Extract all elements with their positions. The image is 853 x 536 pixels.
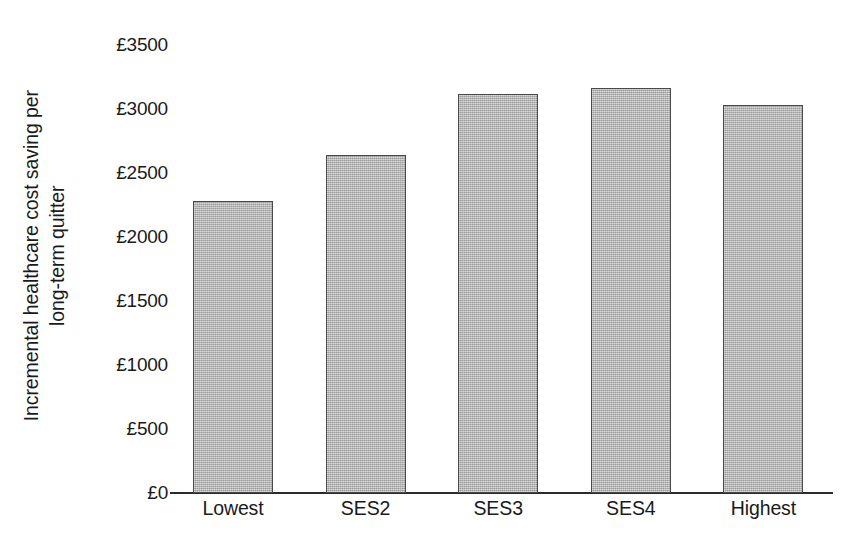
y-axis-tick-label: £3500 xyxy=(116,35,168,54)
y-axis-title: Incremental healthcare cost saving per l… xyxy=(14,0,76,512)
y-axis-tick-label: £1500 xyxy=(116,291,168,310)
x-axis-tick-label: SES4 xyxy=(573,497,689,520)
x-axis-tick-labels: LowestSES2SES3SES4Highest xyxy=(170,497,833,531)
x-axis-tick-label: SES3 xyxy=(440,497,556,520)
y-axis-title-line-1: Incremental healthcare cost saving per xyxy=(19,90,45,421)
x-axis-tick-label: Highest xyxy=(705,497,821,520)
y-axis-tick-label: £2500 xyxy=(116,163,168,182)
y-axis-tick-label: £2000 xyxy=(116,227,168,246)
bar xyxy=(591,88,671,493)
plot-area xyxy=(170,30,833,493)
bar xyxy=(458,94,538,493)
y-axis-tick-label: £3000 xyxy=(116,99,168,118)
y-axis-title-line-2: long-term quitter xyxy=(45,90,71,421)
x-axis-tick-label: Lowest xyxy=(175,497,291,520)
y-axis-tick-label: £1000 xyxy=(116,355,168,374)
bar xyxy=(326,155,406,493)
y-axis-tick-labels: £0£500£1000£1500£2000£2500£3000£3500 xyxy=(86,0,168,536)
y-axis-tick-label: £500 xyxy=(127,419,168,438)
bars-layer xyxy=(170,30,833,493)
x-axis-tick-label: SES2 xyxy=(308,497,424,520)
bar xyxy=(193,201,273,493)
bar-chart: Incremental healthcare cost saving per l… xyxy=(0,0,853,536)
bar xyxy=(723,105,803,493)
y-axis-tick-label: £0 xyxy=(147,483,168,502)
